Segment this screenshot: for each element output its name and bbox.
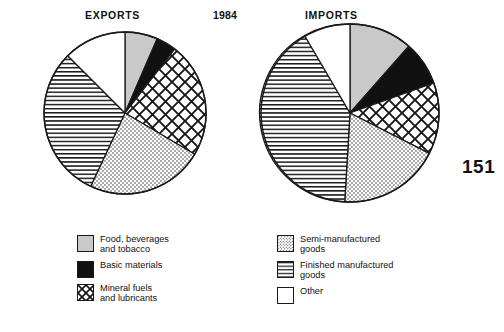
swatch-light-grey-solid <box>77 235 94 252</box>
swatch-white-blank <box>277 287 294 304</box>
legend-label-semi-manufactured-goods: Semi-manufactured goods <box>300 234 380 255</box>
exports-slices <box>44 32 206 194</box>
legend-item-finished-manufactured-goods: Finished manufactured goods <box>277 260 393 281</box>
year-label: 1984 <box>213 9 237 21</box>
legend-item-mineral-fuels-lubricants: Mineral fuels and lubricants <box>77 283 169 304</box>
fine-dots-icon <box>278 236 293 251</box>
figure-page: EXPORTS 1984 IMPORTS 151 <box>0 0 504 332</box>
exports-pie-chart <box>42 30 210 198</box>
swatch-fine-dots <box>277 235 294 252</box>
diamond-crosshatch-icon <box>78 285 93 300</box>
legend-label-other: Other <box>300 286 323 296</box>
imports-pie-chart <box>259 22 443 206</box>
exports-title: EXPORTS <box>85 9 140 21</box>
swatch-horizontal-lines <box>277 261 294 278</box>
legend-item-semi-manufactured-goods: Semi-manufactured goods <box>277 234 393 255</box>
legend-left: Food, beverages and tobacco Basic materi… <box>77 234 169 309</box>
swatch-black-solid <box>77 261 94 278</box>
legend-label-basic-materials: Basic materials <box>100 260 162 270</box>
legend-label-finished-manufactured-goods: Finished manufactured goods <box>300 260 393 281</box>
legend-right: Semi-manufactured goods Finished manufac… <box>277 234 393 309</box>
legend-item-basic-materials: Basic materials <box>77 260 169 278</box>
horizontal-lines-icon <box>278 262 293 277</box>
legend-label-food-beverages-tobacco: Food, beverages and tobacco <box>100 234 169 255</box>
legend-item-food-beverages-tobacco: Food, beverages and tobacco <box>77 234 169 255</box>
imports-title: IMPORTS <box>305 9 358 21</box>
page-number: 151 <box>462 156 495 178</box>
swatch-diamond-crosshatch <box>77 284 94 301</box>
legend-item-other: Other <box>277 286 393 304</box>
legend-label-mineral-fuels-lubricants: Mineral fuels and lubricants <box>100 283 157 304</box>
